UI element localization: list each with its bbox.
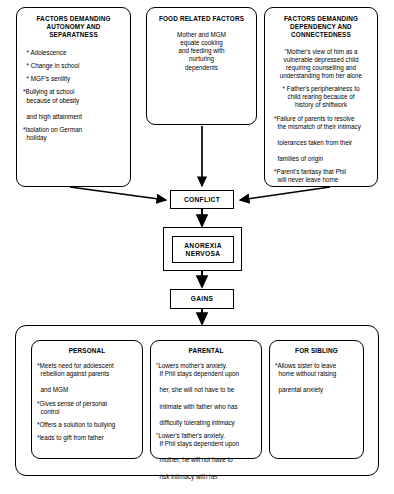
list-item: * Change in school: [23, 62, 124, 70]
list-item: "Lowers mother's anxiety. If Phil stays …: [156, 362, 256, 427]
gains-personal-box: PERSONAL *Meets need for adolescent rebe…: [31, 340, 143, 459]
food-related-factors-list: Mother and MGM equate cooking and feedin…: [153, 31, 250, 71]
list-item: *Failure of parents to resolve the misma…: [269, 115, 373, 164]
gains-personal-heading: PERSONAL: [37, 347, 137, 355]
anorexia-nervosa-label: ANOREXIA NERVOSA: [173, 237, 233, 262]
gains-personal-list: *Meets need for adolescent rebellion aga…: [37, 362, 137, 442]
anorexia-nervosa-outer-box: ANOREXIA NERVOSA: [163, 227, 242, 271]
factors-dependency-list: "Mother's view of him as a vulnerable de…: [269, 48, 373, 185]
list-item: *Allows sister to leave home without rai…: [275, 362, 358, 394]
food-related-factors-box: FOOD RELATED FACTORS Mother and MGM equa…: [146, 7, 257, 125]
arrow-dependency-to-conflict: [240, 187, 330, 200]
list-item: *leads to gift from father: [37, 434, 137, 442]
gains-label: GAINS: [171, 290, 233, 308]
list-item: * Father's peripheralness to child reari…: [269, 85, 373, 109]
list-item: *Meets need for adolescent rebellion aga…: [37, 362, 137, 394]
conflict-box: CONFLICT: [170, 190, 234, 209]
list-item: * MGF's senility: [23, 75, 124, 83]
list-item: * Adolescence: [23, 49, 124, 57]
list-item: *Parent's fantasy that Phil will never l…: [269, 168, 373, 184]
list-item: *Isolation on German holiday: [23, 126, 124, 142]
gains-sibling-box: FOR SIBLING *Allows sister to leave home…: [269, 340, 364, 459]
gains-sibling-list: *Allows sister to leave home without rai…: [275, 362, 358, 394]
list-item: *Gives sense of personal control: [37, 400, 137, 416]
conflict-label: CONFLICT: [171, 191, 233, 208]
list-item: "Lower's father's anxiety. If Phil stays…: [156, 432, 256, 481]
list-item: *Bullying at school because of obesity a…: [23, 88, 124, 120]
factors-autonomy-list: * Adolescence * Change in school * MGF's…: [23, 49, 124, 143]
list-item: *Offers a solution to bullying: [37, 421, 137, 429]
gains-parental-list: "Lowers mother's anxiety. If Phil stays …: [156, 362, 256, 481]
anorexia-nervosa-inner-box: ANOREXIA NERVOSA: [172, 236, 234, 263]
gains-parental-heading: PARENTAL: [156, 347, 256, 355]
food-related-factors-heading: FOOD RELATED FACTORS: [153, 15, 250, 23]
factors-autonomy-heading: FACTORS DEMANDING AUTONOMY AND SEPARATNE…: [23, 15, 124, 40]
diagram-canvas: FACTORS DEMANDING AUTONOMY AND SEPARATNE…: [0, 0, 394, 494]
gains-parental-box: PARENTAL "Lowers mother's anxiety. If Ph…: [150, 340, 262, 459]
gains-box: GAINS: [170, 289, 234, 309]
arrow-autonomy-to-conflict: [70, 187, 166, 200]
factors-autonomy-box: FACTORS DEMANDING AUTONOMY AND SEPARATNE…: [16, 7, 131, 187]
factors-dependency-box: FACTORS DEMANDING DEPENDENCY AND CONNECT…: [264, 7, 378, 187]
gains-sibling-heading: FOR SIBLING: [275, 347, 358, 355]
factors-dependency-heading: FACTORS DEMANDING DEPENDENCY AND CONNECT…: [269, 15, 373, 40]
list-item: Mother and MGM equate cooking and feedin…: [153, 31, 250, 71]
list-item: "Mother's view of him as a vulnerable de…: [269, 48, 373, 80]
